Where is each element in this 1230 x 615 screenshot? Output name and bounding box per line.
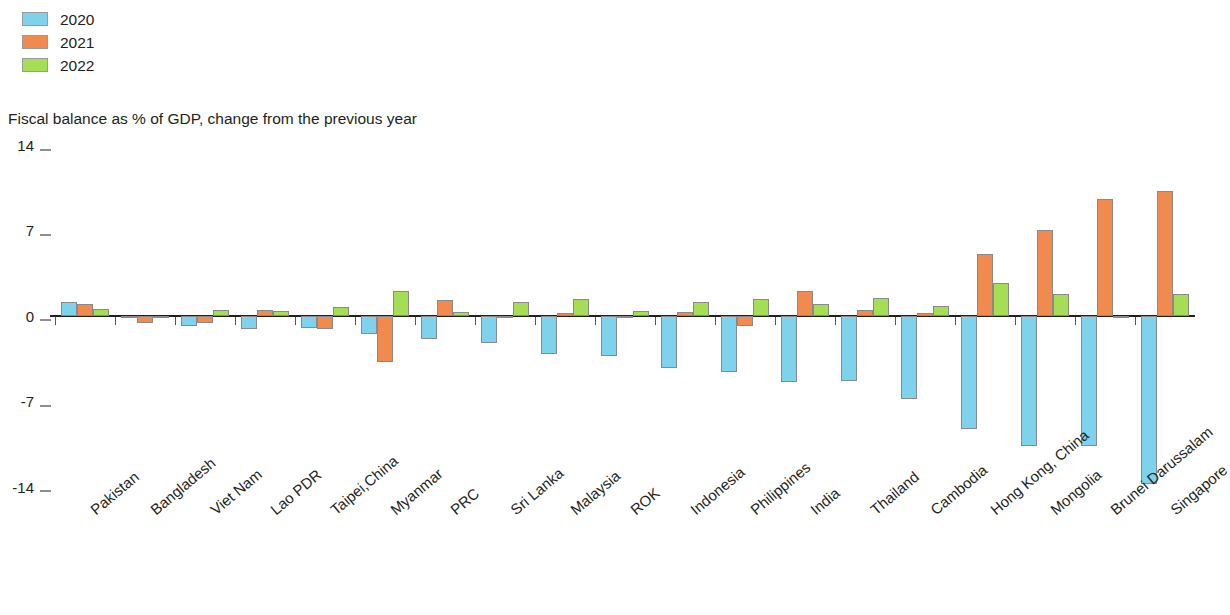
legend-item-2020: 2020 <box>22 8 94 30</box>
bar-2020-taipei-china <box>301 316 317 328</box>
y-axis-tick-label: 0 <box>26 307 34 324</box>
bar-2022-lao-pdr <box>273 311 289 316</box>
y-axis-tick-neg7: -7 <box>21 393 51 410</box>
bar-2020-india <box>781 316 797 382</box>
bar-2021-thailand <box>857 310 873 316</box>
bars-layer <box>55 145 1195 505</box>
bar-2021-myanmar <box>377 316 393 362</box>
bar-2020-sri-lanka <box>481 316 497 343</box>
x-axis-tick <box>55 317 56 325</box>
bar-2021-singapore <box>1157 191 1173 315</box>
bar-2022-bangladesh <box>153 316 169 318</box>
y-axis-tick-0: 0 <box>26 307 51 324</box>
chart-legend: 2020 2021 2022 <box>22 8 94 77</box>
bar-2020-viet-nam <box>181 316 197 326</box>
x-axis-tick <box>835 317 836 325</box>
legend-item-2021: 2021 <box>22 31 94 53</box>
bar-2020-malaysia <box>541 316 557 354</box>
bar-2022-brunei-darussalam <box>1113 316 1129 318</box>
x-axis-tick <box>295 317 296 325</box>
legend-label-2020: 2020 <box>60 12 94 27</box>
legend-item-2022: 2022 <box>22 54 94 76</box>
x-axis-tick <box>535 317 536 325</box>
bar-2022-malaysia <box>573 299 589 316</box>
bar-2022-sri-lanka <box>513 302 529 315</box>
bar-2020-myanmar <box>361 316 377 334</box>
x-axis-tick <box>955 317 956 325</box>
bar-2022-mongolia <box>1053 294 1069 316</box>
bar-2022-indonesia <box>693 302 709 315</box>
bar-2021-cambodia <box>917 313 933 315</box>
x-axis-tick <box>655 317 656 325</box>
bar-2020-bangladesh <box>121 316 137 318</box>
x-axis-labels: PakistanBangladeshViet NamLao PDRTaipei,… <box>55 505 1195 615</box>
bar-2020-cambodia <box>901 316 917 399</box>
bar-2021-malaysia <box>557 313 573 315</box>
y-axis-tick-dash <box>40 491 51 492</box>
bar-2020-pakistan <box>61 302 77 315</box>
bar-2022-pakistan <box>93 309 109 316</box>
x-axis-tick <box>775 317 776 325</box>
y-axis-tick-14: 14 <box>17 137 51 154</box>
x-axis-tick <box>115 317 116 325</box>
x-axis-tick <box>595 317 596 325</box>
bar-2021-sri-lanka <box>497 316 513 318</box>
bar-2021-lao-pdr <box>257 310 273 316</box>
bar-2021-mongolia <box>1037 230 1053 315</box>
bar-2020-rok <box>601 316 617 356</box>
y-axis-tick-neg14: -14 <box>12 478 51 495</box>
bar-2021-prc <box>437 300 453 316</box>
bar-2020-indonesia <box>661 316 677 368</box>
x-axis-tick <box>1135 317 1136 325</box>
bar-2022-myanmar <box>393 291 409 315</box>
legend-swatch-2020 <box>22 12 48 26</box>
bar-2022-singapore <box>1173 294 1189 316</box>
bar-2022-cambodia <box>933 306 949 316</box>
x-axis-tick <box>1015 317 1016 325</box>
x-axis-tick <box>415 317 416 325</box>
bar-2020-singapore <box>1141 316 1157 484</box>
bar-2020-lao-pdr <box>241 316 257 329</box>
bar-2021-india <box>797 291 813 315</box>
bar-2021-indonesia <box>677 312 693 316</box>
x-axis-tick <box>1075 317 1076 325</box>
bar-2022-viet-nam <box>213 310 229 316</box>
y-axis-tick-dash <box>40 320 51 321</box>
y-axis-tick-label: 14 <box>17 137 34 154</box>
bar-2020-thailand <box>841 316 857 381</box>
bar-2022-taipei-china <box>333 307 349 316</box>
x-axis-tick <box>355 317 356 325</box>
bar-2021-rok <box>617 316 633 318</box>
legend-label-2021: 2021 <box>60 35 94 50</box>
bar-2022-hong-kong-china <box>993 283 1009 316</box>
legend-swatch-2022 <box>22 58 48 72</box>
x-axis-tick <box>475 317 476 325</box>
bar-2021-bangladesh <box>137 316 153 323</box>
bar-2022-india <box>813 304 829 316</box>
y-axis-tick-dash <box>40 405 51 406</box>
chart-plot-area: 1470-7-14 <box>55 145 1195 505</box>
bar-2020-brunei-darussalam <box>1081 316 1097 447</box>
bar-2020-philippines <box>721 316 737 372</box>
bar-2022-thailand <box>873 298 889 316</box>
bar-2021-taipei-china <box>317 316 333 329</box>
bar-2021-pakistan <box>77 304 93 316</box>
y-axis-tick-7: 7 <box>26 222 51 239</box>
bar-2021-viet-nam <box>197 316 213 323</box>
bar-2020-hong-kong-china <box>961 316 977 429</box>
x-axis-tick <box>715 317 716 325</box>
y-axis-tick-label: -7 <box>21 393 34 410</box>
y-axis-tick-dash <box>40 234 51 235</box>
x-axis-tick <box>235 317 236 325</box>
bar-2022-philippines <box>753 299 769 316</box>
chart-subtitle: Fiscal balance as % of GDP, change from … <box>8 110 417 128</box>
y-axis-tick-label: 7 <box>26 222 34 239</box>
bar-2020-mongolia <box>1021 316 1037 447</box>
y-axis-tick-dash <box>40 149 51 150</box>
x-axis-tick <box>895 317 896 325</box>
bar-2020-prc <box>421 316 437 339</box>
bar-2021-hong-kong-china <box>977 254 993 316</box>
y-axis-tick-label: -14 <box>12 478 34 495</box>
bar-2021-philippines <box>737 316 753 326</box>
bar-2021-brunei-darussalam <box>1097 199 1113 316</box>
